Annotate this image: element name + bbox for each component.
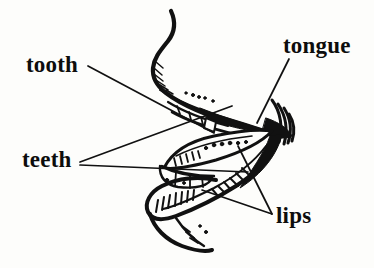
label-teeth: teeth: [22, 148, 72, 171]
mouth-anatomy-figure: tooth teeth tongue lips: [0, 0, 374, 268]
label-tongue: tongue: [283, 34, 351, 57]
label-tooth: tooth: [26, 53, 78, 76]
label-lips: lips: [276, 204, 311, 227]
